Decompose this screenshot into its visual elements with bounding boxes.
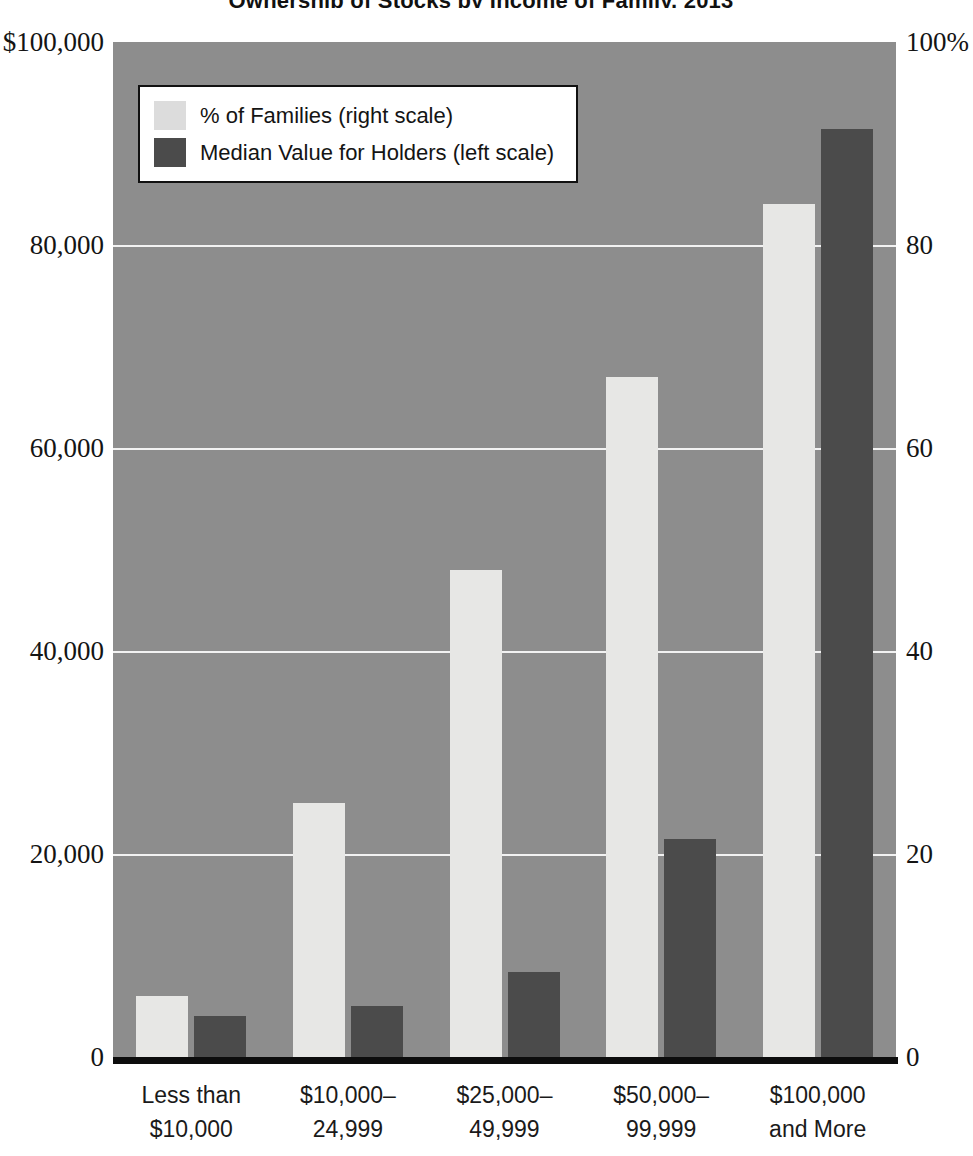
x-axis-category-label: $25,000–49,999 xyxy=(426,1078,583,1146)
x-axis-category-label-line: $10,000– xyxy=(270,1078,427,1112)
x-axis-category-label: $10,000–24,999 xyxy=(270,1078,427,1146)
legend-swatch-icon xyxy=(154,101,186,130)
x-axis-category-labels: Less than$10,000$10,000–24,999$25,000–49… xyxy=(113,1078,896,1156)
x-axis-category-label-line: 49,999 xyxy=(426,1112,583,1146)
x-axis-category-label: Less than$10,000 xyxy=(113,1078,270,1146)
x-axis-category-label-line: $10,000 xyxy=(113,1112,270,1146)
x-axis-category-label-line: $50,000– xyxy=(583,1078,740,1112)
bar xyxy=(821,129,873,1057)
bar xyxy=(450,570,502,1057)
x-axis-category-label: $100,000and More xyxy=(739,1078,896,1146)
plot-area xyxy=(113,42,896,1057)
legend-item: % of Families (right scale) xyxy=(154,97,554,134)
right-axis-tick-label: 60 xyxy=(906,433,973,464)
left-value-axis: 020,00040,00060,00080,000$100,000 xyxy=(0,0,104,1156)
left-axis-tick-label: $100,000 xyxy=(0,27,104,58)
right-percent-axis: 020406080100% xyxy=(906,0,962,1156)
legend-label: % of Families (right scale) xyxy=(200,103,453,129)
x-axis-category-label-line: 99,999 xyxy=(583,1112,740,1146)
x-axis-category-label-line: and More xyxy=(739,1112,896,1146)
bar xyxy=(763,204,815,1057)
legend-swatch-icon xyxy=(154,138,186,167)
legend-label: Median Value for Holders (left scale) xyxy=(200,140,554,166)
right-axis-tick-label: 40 xyxy=(906,636,973,667)
right-axis-tick-label: 20 xyxy=(906,839,973,870)
bar xyxy=(508,972,560,1057)
bar xyxy=(136,996,188,1057)
x-axis-category-label-line: 24,999 xyxy=(270,1112,427,1146)
left-axis-tick-label: 0 xyxy=(0,1042,104,1073)
legend-item: Median Value for Holders (left scale) xyxy=(154,134,554,171)
chart-legend: % of Families (right scale)Median Value … xyxy=(138,85,578,183)
x-axis-category-label: $50,000–99,999 xyxy=(583,1078,740,1146)
x-axis-category-label-line: $25,000– xyxy=(426,1078,583,1112)
left-axis-tick-label: 60,000 xyxy=(0,433,104,464)
x-axis-category-label-line: Less than xyxy=(113,1078,270,1112)
bar xyxy=(293,803,345,1057)
chart-title: Ownership of Stocks by Income of Family,… xyxy=(0,0,962,8)
bar xyxy=(194,1016,246,1057)
left-axis-tick-label: 80,000 xyxy=(0,230,104,261)
bar xyxy=(664,839,716,1057)
right-axis-tick-label: 100% xyxy=(906,27,973,58)
right-axis-tick-label: 0 xyxy=(906,1042,973,1073)
bar xyxy=(351,1006,403,1057)
x-axis-baseline xyxy=(113,1057,898,1064)
left-axis-tick-label: 20,000 xyxy=(0,839,104,870)
left-axis-tick-label: 40,000 xyxy=(0,636,104,667)
right-axis-tick-label: 80 xyxy=(906,230,973,261)
x-axis-category-label-line: $100,000 xyxy=(739,1078,896,1112)
bar xyxy=(606,377,658,1057)
